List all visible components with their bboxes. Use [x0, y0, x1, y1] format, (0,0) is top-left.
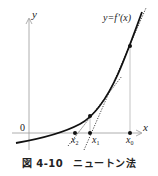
origin-label: 0	[20, 122, 25, 133]
figure-caption: 図 4-10 ニュートン法	[0, 155, 158, 170]
x0-label: x0	[125, 134, 133, 146]
curve-point-x0	[128, 44, 132, 48]
caption-title: ニュートン法	[73, 158, 136, 169]
function-curve	[16, 12, 142, 143]
newton-diagram: y x 0 y=f ′(x) x2 x1 x0	[0, 0, 158, 176]
x2-label: x2	[70, 134, 78, 146]
curve-label: y=f ′(x)	[102, 12, 132, 24]
x1-label: x1	[91, 134, 99, 146]
curve-point-x1	[88, 114, 92, 118]
x-axis-label: x	[142, 121, 148, 133]
newton-method-figure: y x 0 y=f ′(x) x2 x1 x0 図 4-10 ニュートン法	[0, 0, 158, 176]
y-axis-label: y	[31, 8, 37, 20]
caption-number: 図 4-10	[22, 158, 64, 169]
